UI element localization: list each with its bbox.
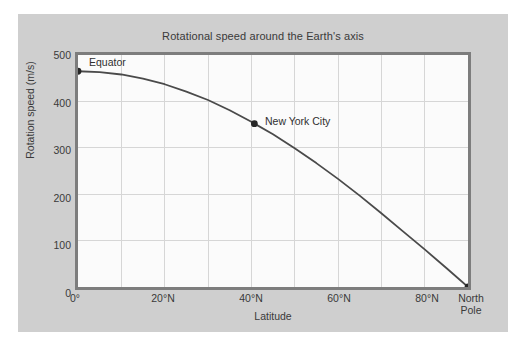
data-point-marker — [78, 68, 81, 75]
data-line — [78, 71, 468, 287]
x-axis-label: Latitude — [75, 310, 471, 322]
plot-area: Equator New York City — [75, 52, 471, 290]
x-tick-text: 60°N — [304, 293, 374, 305]
y-tick-label: 200 — [31, 193, 71, 203]
x-tick-label: 40°N — [216, 293, 286, 305]
x-tick-text-north: North — [436, 293, 506, 305]
y-tick-label: 500 — [31, 50, 71, 60]
annotation-equator: Equator — [89, 56, 126, 68]
data-point-marker — [251, 120, 258, 127]
chart-figure: Rotational speed around the Earth's axis… — [0, 0, 525, 346]
x-tick-text: 20°N — [128, 293, 198, 305]
y-tick-label: 300 — [31, 145, 71, 155]
annotation-new-york-city: New York City — [265, 115, 330, 127]
y-tick-label: 400 — [31, 98, 71, 108]
x-tick-label: 20°N — [128, 293, 198, 305]
y-tick-label: 100 — [31, 240, 71, 250]
plot-svg — [78, 55, 468, 287]
chart-panel: Rotational speed around the Earth's axis… — [18, 14, 508, 332]
x-tick-text: 40°N — [216, 293, 286, 305]
x-tick-label: 60°N — [304, 293, 374, 305]
x-tick-label: 0° — [40, 293, 110, 305]
y-axis-tick-labels: 500 400 300 200 100 0 — [27, 52, 71, 290]
x-tick-text: 0° — [40, 293, 110, 305]
chart-title: Rotational speed around the Earth's axis — [18, 30, 508, 42]
